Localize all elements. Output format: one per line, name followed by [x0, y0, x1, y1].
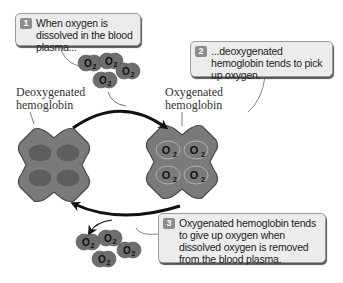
callout-3-text: Oxygenated hemoglobin tends to give up o… [179, 217, 316, 265]
svg-text:O: O [162, 169, 171, 181]
o2-molecules-lower [76, 230, 141, 267]
svg-text:2: 2 [201, 151, 205, 158]
callout-2-tail [248, 77, 265, 112]
svg-text:O: O [162, 144, 171, 156]
callout-2-text: ...deoxygenated hemoglobin tends to pick… [211, 45, 322, 81]
callout-2-number: 2 [195, 46, 207, 57]
oxy-hemoglobin: O2 O2 O2 O2 [146, 126, 217, 199]
callout-3-tail [136, 228, 158, 234]
callout-3-number: 3 [163, 218, 175, 229]
svg-text:O: O [190, 169, 199, 181]
callout-1: 1 When oxygen is dissolved in the blood … [15, 13, 141, 46]
callout-3: 3 Oxygenated hemoglobin tends to give up… [158, 213, 326, 263]
svg-text:2: 2 [173, 151, 177, 158]
svg-text:2: 2 [173, 176, 177, 183]
o2-molecules-upper [78, 53, 140, 88]
callout-1-number: 1 [20, 18, 32, 29]
deoxy-hemoglobin-label: Deoxygenated hemoglobin [16, 86, 96, 112]
arrow-oxygen-binding [73, 111, 165, 128]
callout-2: 2 ...deoxygenated hemoglobin tends to pi… [190, 41, 333, 77]
deoxy-hemoglobin [18, 129, 89, 202]
svg-text:2: 2 [201, 176, 205, 183]
oxy-hemoglobin-label: Oxygenated hemoglobin [165, 86, 245, 112]
svg-text:O: O [190, 144, 199, 156]
